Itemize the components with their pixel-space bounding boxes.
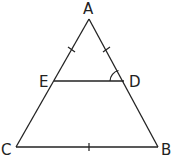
label-D: D: [129, 73, 141, 91]
triangle-diagram: A E D C B: [0, 0, 173, 159]
label-C: C: [1, 141, 11, 159]
label-B: B: [161, 141, 171, 159]
label-A: A: [83, 0, 94, 18]
segment-AB: [89, 19, 158, 147]
tick-mark-AE: [68, 47, 75, 52]
segment-AC: [16, 19, 89, 147]
label-E: E: [39, 73, 48, 91]
